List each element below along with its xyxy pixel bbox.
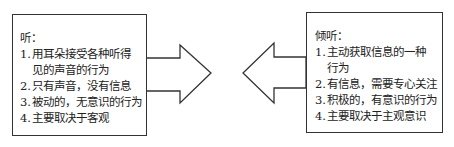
list-item: 3.积极的，有意识的行为 (315, 92, 442, 108)
right-pointing-arrow-icon (146, 45, 211, 103)
listening-list: 1.主动获取信息的一种行为 2.有信息，需要专心关注 3.积极的，有意识的行为 … (315, 44, 442, 124)
list-item: 4.主要取决于主观意识 (315, 108, 442, 124)
list-item: 2.有信息，需要专心关注 (315, 76, 442, 92)
list-item: 2.只有声音，没有信息 (20, 78, 146, 94)
hearing-box: 听： 1.用耳朵接受各种听得见的声音的行为 2.只有声音，没有信息 3.被动的，… (12, 14, 147, 136)
list-item: 1.主动获取信息的一种行为 (315, 44, 442, 76)
list-item: 3.被动的，无意识的行为 (20, 94, 146, 110)
listening-box: 倾听： 1.主动获取信息的一种行为 2.有信息，需要专心关注 3.积极的，有意识… (306, 12, 443, 133)
hearing-list: 1.用耳朵接受各种听得见的声音的行为 2.只有声音，没有信息 3.被动的，无意识… (20, 46, 146, 126)
listening-title: 倾听： (315, 28, 442, 44)
list-item: 1.用耳朵接受各种听得见的声音的行为 (20, 46, 146, 78)
list-item: 4.主要取决于客观 (20, 110, 146, 126)
left-pointing-arrow-icon (243, 43, 306, 103)
hearing-title: 听： (20, 30, 146, 46)
